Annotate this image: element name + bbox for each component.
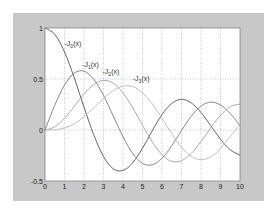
x-tick-label: 2 bbox=[82, 183, 86, 190]
x-tick-label: 3 bbox=[102, 183, 106, 190]
y-tick-label: 1 bbox=[39, 25, 43, 32]
x-tick-label: 9 bbox=[219, 183, 223, 190]
y-axis-ticks: -0.500.51 bbox=[31, 25, 43, 185]
x-tick-label: 6 bbox=[160, 183, 164, 190]
y-tick-label: -0.5 bbox=[31, 178, 43, 185]
x-axis-ticks: 012345678910 bbox=[43, 183, 244, 190]
x-tick-label: 4 bbox=[121, 183, 125, 190]
x-tick-label: 8 bbox=[199, 183, 203, 190]
bessel-chart: 012345678910 -0.500.51 -J0(x)-J1(x)-J2(x… bbox=[0, 0, 276, 215]
y-tick-label: 0.5 bbox=[33, 76, 43, 83]
x-tick-label: 5 bbox=[141, 183, 145, 190]
x-tick-label: 10 bbox=[236, 183, 244, 190]
x-tick-label: 0 bbox=[43, 183, 47, 190]
x-tick-label: 1 bbox=[63, 183, 67, 190]
y-tick-label: 0 bbox=[39, 127, 43, 134]
x-tick-label: 7 bbox=[180, 183, 184, 190]
